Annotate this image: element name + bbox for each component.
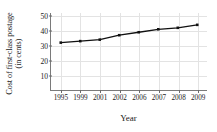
y-tick-mark [49, 16, 52, 17]
y-axis-title: Cost of first-class postage (in cents) [0, 0, 30, 108]
y-tick-mark [49, 31, 52, 32]
data-point-marker [137, 31, 140, 34]
y-axis-title-line2: (in cents) [15, 13, 24, 95]
x-tick-mark [100, 90, 101, 93]
x-tick-label: 2006 [132, 94, 146, 102]
x-tick-mark [198, 90, 199, 93]
data-point-marker [79, 40, 82, 43]
x-tick-mark [61, 90, 62, 93]
x-tick-label: 2007 [152, 94, 166, 102]
y-tick-label: 50 [40, 12, 48, 21]
x-tick-mark [120, 90, 121, 93]
data-point-marker [157, 28, 160, 31]
x-axis-title: Year [50, 113, 207, 123]
x-tick-label: 2008 [171, 94, 185, 102]
y-tick-label: 20 [40, 57, 48, 66]
x-tick-label: 2009 [191, 94, 205, 102]
y-tick-mark [49, 76, 52, 77]
y-tick-label: 30 [40, 42, 48, 51]
y-tick-label: 10 [40, 72, 48, 81]
x-tick-mark [80, 90, 81, 93]
x-tick-label: 2002 [113, 94, 127, 102]
x-tick-mark [179, 90, 180, 93]
data-point-marker [59, 41, 62, 44]
x-tick-label: 1999 [73, 94, 87, 102]
y-tick-label: 40 [40, 27, 48, 36]
data-point-marker [118, 34, 121, 37]
data-point-marker [196, 24, 199, 27]
x-tick-label: 2001 [93, 94, 107, 102]
postage-cost-line-chart: Cost of first-class postage (in cents) 1… [0, 0, 217, 132]
y-tick-mark [49, 46, 52, 47]
series-layer [51, 13, 207, 90]
x-tick-label: 1995 [54, 94, 68, 102]
x-tick-mark [159, 90, 160, 93]
data-point-marker [176, 27, 179, 30]
x-tick-mark [139, 90, 140, 93]
data-point-marker [98, 38, 101, 41]
plot-area: 1020304050199519992001200220062007200820… [50, 13, 207, 91]
y-tick-mark [49, 61, 52, 62]
